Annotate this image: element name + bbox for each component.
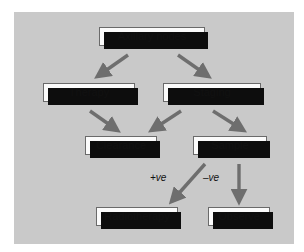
node-therapy: Therapy bbox=[43, 83, 135, 102]
edge-label-positive: +ve bbox=[150, 173, 166, 183]
edge-label-negative: –ve bbox=[203, 173, 219, 183]
node-axillary-nodes-label: Axillary nodes bbox=[118, 31, 186, 42]
node-observe: Observe bbox=[208, 207, 270, 226]
node-observe-label: Observe bbox=[218, 211, 260, 222]
node-radiotherapy: Radiotherapy bbox=[96, 207, 178, 226]
node-therapy-label: Therapy bbox=[69, 87, 109, 98]
node-sample: Sample bbox=[193, 136, 267, 155]
node-clearance-label: Clearance bbox=[96, 140, 146, 151]
node-axillary-nodes: Axillary nodes bbox=[99, 27, 205, 46]
node-staging: Staging bbox=[163, 83, 261, 102]
node-clearance: Clearance bbox=[85, 136, 157, 155]
node-staging-label: Staging bbox=[193, 87, 230, 98]
flowchart-figure: Axillary nodes Therapy Staging Clearance… bbox=[0, 0, 304, 252]
node-sample-label: Sample bbox=[211, 140, 248, 151]
node-radiotherapy-label: Radiotherapy bbox=[104, 211, 169, 222]
